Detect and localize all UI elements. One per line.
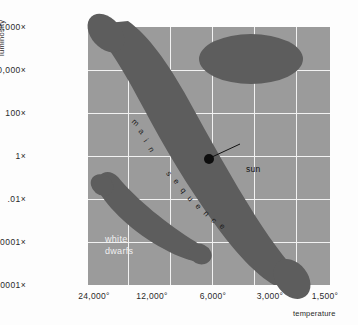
sun-label: sun — [246, 164, 261, 174]
x-axis-title: temperature — [293, 309, 336, 318]
x-tick-label-3000: 3,000° — [257, 291, 283, 301]
white-dwarfs-label-line2: dwarfs — [105, 245, 133, 257]
y-tick-label-0-000001: .000001× — [0, 280, 26, 290]
y-tick-label-10000: 10,000× — [0, 65, 26, 75]
x-tick-label-6000: 6,000° — [200, 291, 226, 301]
x-tick-label-12000: 12,000° — [136, 291, 168, 301]
region-giants — [199, 34, 303, 84]
y-tick-label-1: 1× — [16, 151, 27, 161]
plot-area: m a i n s e q u e n c e white dwarfs sun — [88, 27, 330, 285]
y-tick-label-100: 100× — [5, 108, 26, 118]
x-tick-label-24000: 24,000° — [78, 291, 110, 301]
x-tick-label-1500: 1,500° — [312, 291, 338, 301]
white-dwarfs-label: white dwarfs — [105, 233, 133, 257]
y-tick-label-0-01: .01× — [8, 194, 26, 204]
white-dwarfs-label-line1: white — [105, 233, 133, 245]
y-tick-label-0-0001: .0001× — [0, 237, 26, 247]
hr-diagram-figure: luminosity 1,000,000× 10,000× 100× 1× .0… — [0, 0, 358, 325]
y-tick-label-1000000: 1,000,000× — [0, 22, 26, 32]
sun-marker — [204, 154, 214, 164]
